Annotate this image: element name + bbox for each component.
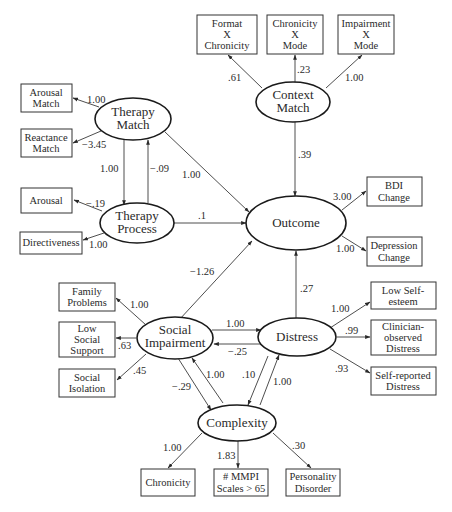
box-bdi-change: BDI Change (367, 177, 422, 206)
svg-text:Match: Match (116, 117, 150, 132)
svg-text:Depression: Depression (370, 240, 418, 251)
svg-text:Impairment: Impairment (145, 335, 206, 350)
box-self-reported-distress: Self-reported Distress (371, 367, 436, 395)
svg-text:Disorder: Disorder (295, 483, 332, 494)
w-out-depression: 1.00 (336, 243, 354, 254)
svg-text:X: X (223, 29, 231, 40)
svg-text:esteem: esteem (388, 296, 417, 307)
w-tp-arousal: −.19 (86, 198, 105, 209)
w-tm-outcome: 1.00 (182, 169, 200, 180)
box-impairment-x-mode: Impairment X Mode (338, 15, 394, 54)
box-chronicity-x-mode: Chronicity X Mode (267, 15, 323, 54)
box-social-isolation: Social Isolation (59, 369, 115, 397)
w-cx-dist: 1.00 (273, 376, 291, 387)
w-cx-mmpi: 1.83 (217, 450, 235, 461)
svg-text:Chronicity: Chronicity (146, 477, 192, 488)
svg-text:Scales > 65: Scales > 65 (217, 483, 266, 494)
ellipse-therapy-process: Therapy Process (100, 203, 174, 243)
w-cm-outcome: .39 (298, 149, 311, 160)
w-si-cx: −.29 (172, 381, 191, 392)
svg-text:Personality: Personality (289, 471, 337, 482)
svg-text:Low Self-: Low Self- (382, 285, 425, 296)
svg-text:Social: Social (74, 334, 100, 345)
svg-text:Distress: Distress (386, 381, 420, 392)
w-si-support: .63 (118, 340, 131, 351)
w-tp-tm: −.09 (150, 163, 169, 174)
ellipse-social-impairment: Social Impairment (137, 317, 213, 359)
box-arousal: Arousal (21, 188, 72, 213)
svg-text:X: X (362, 29, 370, 40)
svg-text:Self-reported: Self-reported (375, 370, 431, 381)
box-personality-disorder: Personality Disorder (286, 469, 340, 496)
svg-text:# MMPI: # MMPI (223, 471, 259, 482)
svg-text:Impairment: Impairment (342, 18, 391, 29)
w-dist-cx: .10 (242, 369, 255, 380)
svg-text:Mode: Mode (354, 40, 379, 51)
svg-text:Arousal: Arousal (29, 195, 62, 206)
svg-text:Change: Change (378, 192, 410, 203)
svg-text:Directiveness: Directiveness (22, 237, 79, 248)
w-cx-chronicity: 1.00 (163, 442, 181, 453)
sem-diagram: .61 .23 1.00 .39 1.00 −3.45 1.00 −.09 1.… (0, 0, 452, 512)
w-cm-chronicity: .23 (297, 64, 310, 75)
box-low-social-support: Low Social Support (59, 322, 115, 357)
w-cm-impairment: 1.00 (345, 72, 363, 83)
w-dist-selfreport: .93 (335, 363, 348, 374)
w-si-outcome: −1.26 (190, 266, 214, 277)
w-cm-format: .61 (228, 72, 241, 83)
w-tp-directiveness: 1.00 (89, 239, 107, 250)
svg-text:Match: Match (33, 98, 61, 109)
w-si-dist: 1.00 (226, 318, 244, 329)
w-dist-selfesteem: 1.00 (331, 303, 349, 314)
box-reactance-match: Reactance Match (21, 129, 72, 157)
svg-text:Support: Support (70, 345, 103, 356)
w-dist-si: −.25 (228, 346, 247, 357)
w-dist-clinician: .99 (345, 325, 358, 336)
w-tp-outcome: .1 (198, 210, 206, 221)
latent-variables: Context Match Therapy Match Therapy Proc… (95, 82, 346, 441)
svg-text:Match: Match (33, 143, 61, 154)
svg-text:Match: Match (276, 100, 310, 115)
w-dist-outcome: .27 (300, 283, 313, 294)
box-low-self-esteem: Low Self- esteem (371, 282, 436, 309)
svg-text:Outcome: Outcome (272, 215, 320, 230)
box-mmpi-scales: # MMPI Scales > 65 (214, 469, 268, 496)
svg-text:Format: Format (212, 18, 242, 29)
w-tm-tp: 1.00 (100, 163, 118, 174)
ellipse-context-match: Context Match (256, 82, 330, 122)
box-format-x-chronicity: Format X Chronicity (197, 15, 257, 54)
edge-dist-cx (248, 356, 268, 405)
svg-text:observed: observed (384, 332, 423, 343)
ellipse-complexity: Complexity (198, 405, 276, 441)
box-clinician-observed-distress: Clinician- observed Distress (371, 320, 436, 355)
svg-text:BDI: BDI (385, 180, 404, 191)
w-tm-reactance: −3.45 (82, 139, 106, 150)
svg-text:Social: Social (74, 372, 100, 383)
w-si-family: 1.00 (130, 299, 148, 310)
w-si-isolation: .45 (133, 365, 146, 376)
box-family-problems: Family Problems (59, 283, 115, 311)
svg-text:Chronicity: Chronicity (205, 40, 251, 51)
ellipse-therapy-match: Therapy Match (95, 98, 171, 140)
ellipse-distress: Distress (258, 318, 336, 356)
svg-text:Clinician-: Clinician- (382, 321, 424, 332)
svg-text:Problems: Problems (67, 297, 107, 308)
svg-text:Reactance: Reactance (24, 132, 67, 143)
svg-text:Mode: Mode (283, 40, 308, 51)
w-out-bdi: 3.00 (333, 191, 351, 202)
box-depression-change: Depression Change (367, 237, 422, 266)
svg-text:Chronicity: Chronicity (273, 18, 319, 29)
w-cx-pd: .30 (292, 440, 305, 451)
box-directiveness: Directiveness (20, 232, 82, 254)
svg-text:Isolation: Isolation (69, 383, 106, 394)
svg-text:Distress: Distress (276, 329, 318, 344)
svg-text:Distress: Distress (386, 343, 420, 354)
svg-text:Arousal: Arousal (29, 87, 62, 98)
svg-text:Change: Change (378, 252, 410, 263)
box-arousal-match: Arousal Match (21, 84, 72, 112)
w-cx-si: 1.00 (206, 369, 224, 380)
edge-si-outcome (179, 241, 252, 320)
svg-text:X: X (291, 29, 299, 40)
edge-cx-si (192, 358, 223, 403)
box-chronicity: Chronicity (141, 469, 195, 496)
